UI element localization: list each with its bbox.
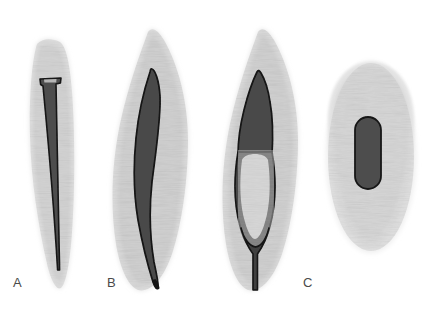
- panel-label-a: A: [13, 276, 22, 289]
- root-canal-c: [355, 117, 381, 189]
- figure-root-canal-morphology: A B C: [0, 0, 435, 309]
- panel-label-b: B: [107, 276, 116, 289]
- panel-a-tooth: [20, 30, 90, 300]
- figure-canvas: [0, 0, 435, 309]
- canal-orifice-notch-a: [44, 79, 57, 83]
- panel-b2-tooth: [215, 25, 305, 300]
- panel-label-c: C: [303, 276, 313, 289]
- panel-b-tooth: [105, 25, 195, 300]
- panel-c-tooth: [325, 60, 417, 255]
